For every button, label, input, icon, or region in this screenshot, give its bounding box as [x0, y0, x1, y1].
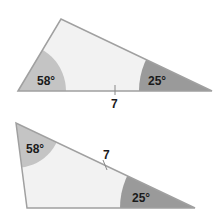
- angle-label-58: 58°: [37, 74, 55, 88]
- angle-label-25: 25°: [148, 74, 166, 88]
- angle-label-25: 25°: [132, 191, 150, 205]
- side-label: 7: [103, 148, 110, 162]
- side-label: 7: [111, 97, 118, 111]
- triangles-figure: 58° 25° 7 58° 7 25°: [0, 0, 223, 221]
- angle-label-58: 58°: [26, 142, 44, 156]
